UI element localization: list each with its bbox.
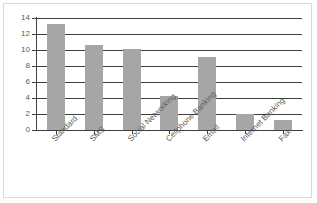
y-tick-label: 0 — [8, 126, 30, 134]
gridline-8 — [37, 66, 302, 67]
y-tick-mark — [32, 82, 36, 83]
y-tick-mark — [32, 130, 36, 131]
y-tick-label: 2 — [8, 110, 30, 118]
bar[interactable] — [236, 114, 254, 130]
y-axis-tick-labels: 02468101214 — [4, 4, 30, 203]
y-tick-label: 14 — [8, 14, 30, 22]
bar[interactable] — [85, 45, 103, 130]
x-tick-mark — [169, 131, 170, 134]
y-tick-label: 8 — [8, 62, 30, 70]
x-tick-mark — [94, 131, 95, 134]
plot-area — [37, 18, 302, 130]
y-tick-mark — [32, 50, 36, 51]
bar[interactable] — [198, 57, 216, 130]
gridline-14 — [37, 18, 302, 19]
y-tick-mark — [32, 66, 36, 67]
y-tick-mark — [32, 114, 36, 115]
bar[interactable] — [274, 120, 292, 130]
y-tick-label: 4 — [8, 94, 30, 102]
y-tick-mark — [32, 34, 36, 35]
gridline-12 — [37, 34, 302, 35]
y-tick-label: 12 — [8, 30, 30, 38]
x-tick-mark — [132, 131, 133, 134]
y-tick-label: 10 — [8, 46, 30, 54]
y-tick-label: 6 — [8, 78, 30, 86]
x-tick-mark — [207, 131, 208, 134]
y-axis-line — [36, 17, 37, 131]
gridline-10 — [37, 50, 302, 51]
x-tick-mark — [56, 131, 57, 134]
bar[interactable] — [47, 24, 65, 130]
bar[interactable] — [123, 49, 141, 130]
chart-frame: 02468101214 StandardSMSSocial Networking… — [3, 3, 312, 198]
gridline-6 — [37, 82, 302, 83]
y-tick-mark — [32, 18, 36, 19]
x-tick-mark — [283, 131, 284, 134]
x-tick-mark — [245, 131, 246, 134]
y-tick-mark — [32, 98, 36, 99]
bar[interactable] — [160, 96, 178, 130]
